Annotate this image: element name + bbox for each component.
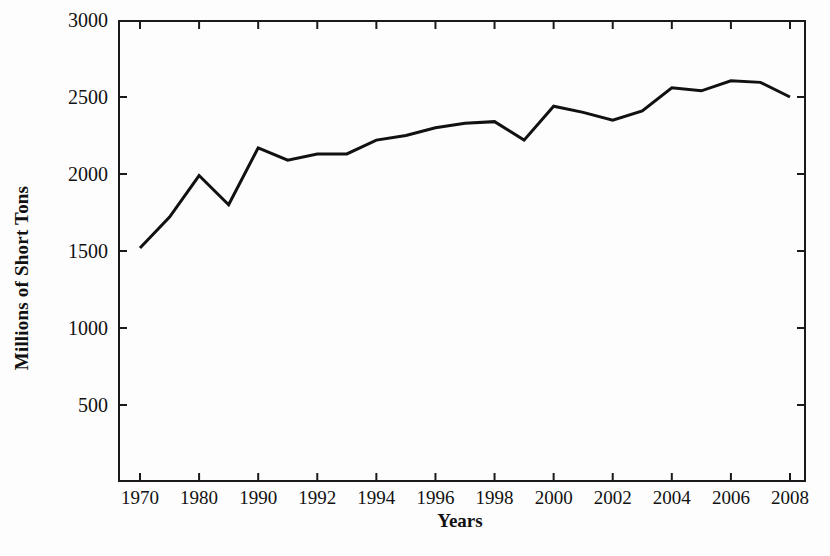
x-tick-label-2004: 2004 [653, 487, 691, 509]
x-axis-title-text: Years [437, 510, 482, 531]
chart-figure: Millions of Short Tons 50010001500200025… [0, 0, 830, 556]
x-tick-label-2008: 2008 [771, 487, 809, 509]
x-tick-label-1998: 1998 [476, 487, 514, 509]
line-chart-svg [118, 20, 806, 482]
x-tick-label-1970: 1970 [121, 487, 159, 509]
x-tick-label-2006: 2006 [712, 487, 750, 509]
y-axis-title-text: Millions of Short Tons [11, 186, 33, 370]
y-axis-title: Millions of Short Tons [0, 0, 44, 556]
plot-area [118, 20, 806, 482]
x-tick-label-2000: 2000 [535, 487, 573, 509]
x-axis-title: Years [110, 510, 810, 532]
x-tick-label-2002: 2002 [594, 487, 632, 509]
x-tick-label-1980: 1980 [180, 487, 218, 509]
x-tick-label-1996: 1996 [416, 487, 454, 509]
x-tick-label-1992: 1992 [298, 487, 336, 509]
data-series-line [140, 81, 790, 248]
x-tick-label-1994: 1994 [357, 487, 395, 509]
x-tick-label-1990: 1990 [239, 487, 277, 509]
